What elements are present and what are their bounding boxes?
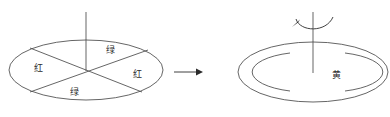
right-disk-label: 黄 xyxy=(332,69,341,80)
transition-arrow-group xyxy=(174,69,203,76)
left-disk-sector-label-top: 绿 xyxy=(106,44,115,55)
right-disk-inner-arc-right xyxy=(345,53,383,91)
right-disk-inner-arc-left xyxy=(252,53,290,91)
left-disk-sector-label-right: 红 xyxy=(133,68,142,79)
rotation-arrow-curve xyxy=(296,17,333,29)
figure-container: 绿 红 红 绿 黄 xyxy=(0,0,390,117)
left-disk-divider-b xyxy=(30,50,148,92)
figure-svg: 绿 红 红 绿 黄 xyxy=(0,0,390,117)
right-disk-group: 黄 xyxy=(238,12,388,102)
transition-arrow-head xyxy=(196,69,203,76)
left-disk-group: 绿 红 红 绿 xyxy=(9,12,163,100)
left-disk-sector-label-left: 红 xyxy=(34,62,43,73)
left-disk-sector-label-bottom: 绿 xyxy=(70,86,79,97)
